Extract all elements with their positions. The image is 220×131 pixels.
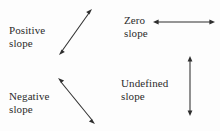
- label-zero-slope-line1: Zero: [124, 14, 148, 27]
- label-undefined-slope-line1: Undefined: [121, 77, 168, 90]
- label-positive-slope: Positive slope: [9, 24, 45, 49]
- label-positive-slope-line2: slope: [9, 37, 45, 50]
- diagonal-up-right-double-arrow: [59, 9, 92, 55]
- diagonal-down-right-double-arrow: [58, 78, 95, 124]
- label-negative-slope-line2: slope: [9, 103, 50, 116]
- label-negative-slope: Negative slope: [9, 90, 50, 115]
- horizontal-double-arrow: [153, 20, 215, 25]
- label-zero-slope-line2: slope: [124, 27, 148, 40]
- label-zero-slope: Zero slope: [124, 14, 148, 39]
- label-undefined-slope: Undefined slope: [121, 77, 168, 102]
- label-undefined-slope-line2: slope: [121, 90, 168, 103]
- label-positive-slope-line1: Positive: [9, 24, 45, 37]
- label-negative-slope-line1: Negative: [9, 90, 50, 103]
- vertical-double-arrow: [188, 56, 193, 116]
- slope-types-diagram: Positive slope Negative slope Zero slope…: [0, 0, 220, 131]
